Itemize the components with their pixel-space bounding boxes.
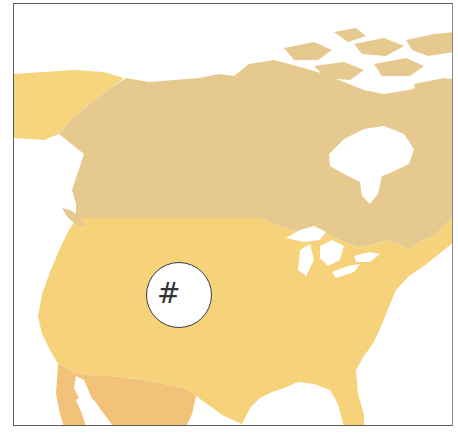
map-label-marker: #	[146, 262, 212, 328]
north-america-map	[14, 4, 453, 426]
map-label-symbol: #	[157, 277, 180, 310]
map-frame: #	[13, 3, 453, 426]
